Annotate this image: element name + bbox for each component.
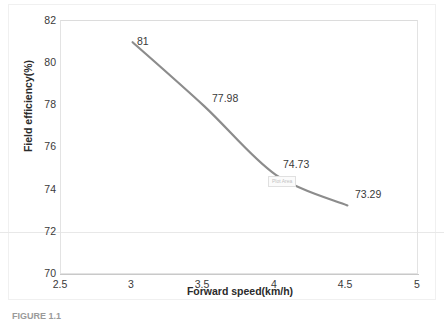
- y-tick-label: 82: [34, 15, 56, 26]
- data-point-label: 74.73: [283, 158, 309, 170]
- plot-area[interactable]: [60, 20, 418, 274]
- figure-container: 82 80 78 76 74 72 70 2.5 3 3.5 4 4.5 5 F…: [0, 0, 444, 322]
- y-tick-label: 74: [34, 184, 56, 195]
- x-axis-title: Forward speed(km/h): [120, 285, 360, 297]
- y-axis-title: Field efficiency(%): [22, 36, 34, 176]
- plot-area-tooltip: Plot Area: [268, 176, 296, 187]
- data-point-label: 81: [137, 35, 149, 47]
- y-tick-label: 72: [34, 226, 56, 237]
- series-line-path: [133, 42, 348, 205]
- y-tick-label: 78: [34, 99, 56, 110]
- x-tick-label: 5: [402, 279, 432, 290]
- data-point-label: 73.29: [355, 188, 381, 200]
- x-tick-label: 2.5: [45, 279, 75, 290]
- data-point-label: 77.98: [212, 92, 238, 104]
- figure-caption: FIGURE 1.1: [12, 311, 432, 322]
- series-line-svg: [61, 21, 419, 275]
- y-tick-label: 80: [34, 57, 56, 68]
- y-tick-label: 76: [34, 141, 56, 152]
